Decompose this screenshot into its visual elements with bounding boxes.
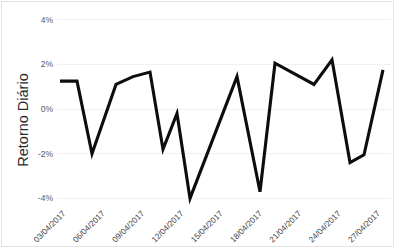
x-axis-tick-label: 12/04/2017 xyxy=(150,209,186,245)
x-axis-tick-label: 06/04/2017 xyxy=(71,209,107,245)
x-axis-tick-label: 21/04/2017 xyxy=(268,209,304,245)
x-axis-tick-label: 15/04/2017 xyxy=(189,209,225,245)
y-axis-tick-label: 0% xyxy=(41,104,54,114)
x-axis-tick-label: 09/04/2017 xyxy=(111,209,147,245)
y-axis-title: Retorno Diário xyxy=(15,73,31,167)
line-chart-plot: 4%2%0%-2%-4% 03/04/201706/04/201709/04/2… xyxy=(2,2,395,248)
data-series-line xyxy=(60,60,383,199)
y-axis-tick-label: -2% xyxy=(38,149,54,159)
x-axis-tick-label: 03/04/2017 xyxy=(32,209,68,245)
x-axis-tick-labels: 03/04/201706/04/201709/04/201712/04/2017… xyxy=(32,209,382,245)
x-axis-tick-label: 24/04/2017 xyxy=(307,209,343,245)
y-axis-tick-label: -4% xyxy=(38,193,54,203)
chart-container: 4%2%0%-2%-4% 03/04/201706/04/201709/04/2… xyxy=(1,1,394,247)
y-axis-tick-labels: 4%2%0%-2%-4% xyxy=(38,15,54,204)
y-axis-tick-label: 4% xyxy=(41,15,54,25)
x-axis-tick-label: 18/04/2017 xyxy=(229,209,265,245)
y-axis-tick-label: 2% xyxy=(41,59,54,69)
x-axis-tick-label: 27/04/2017 xyxy=(346,209,382,245)
